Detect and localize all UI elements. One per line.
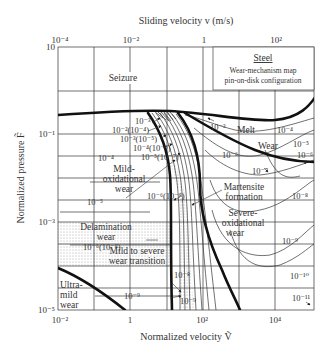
contour-label: 10⁻⁹ [282, 236, 298, 246]
legend-title: Steel [254, 53, 273, 63]
top-axis-title: Sliding velocity v (m/s) [139, 15, 234, 27]
contour-label: 10⁻⁶(10⁻⁸) [83, 242, 121, 252]
legend-line2: pin-on-disk configuration [225, 76, 302, 85]
region-delamination-1: Delamination [80, 222, 132, 232]
region-martensite-1: Martensite [224, 182, 265, 192]
contour-label: 10⁻⁵ [87, 197, 103, 207]
left-tick: 10⁻¹ [39, 129, 56, 139]
top-tick: 10² [270, 35, 282, 45]
contour-label: 10⁻¹⁰ [290, 271, 310, 281]
region-mild-oxidational-1: Mild- [113, 164, 135, 174]
wear-mechanism-map: Sliding velocity v (m/s) 10⁻⁴ 10⁻² 1 10²… [0, 0, 329, 356]
contour-label: 10⁻⁹ [124, 291, 140, 301]
left-tick: 10⁻³ [39, 217, 56, 227]
region-severe-oxidational-2: oxidational [222, 218, 265, 228]
bottom-tick: 10⁴ [269, 315, 281, 325]
top-tick: 10⁻² [123, 35, 140, 45]
bottom-axis-title: Normalized velocity Ṽ [140, 331, 232, 342]
legend-line1: Wear-mechanism map [230, 66, 297, 75]
contour-label: 10⁻⁸ [292, 191, 308, 201]
legend-box: Steel Wear-mechanism map pin-on-disk con… [213, 47, 314, 90]
left-tick: 10⁻⁵ [38, 305, 55, 315]
contour-labels: 10⁻³ 10⁻²(10⁻⁴) 10⁻³(10⁻⁵) 10⁻⁴(10⁻⁶) 10… [83, 116, 313, 306]
contour-label: 10⁻¹¹ [292, 293, 311, 303]
region-severe-oxidational-3: wear [226, 228, 245, 238]
region-mild-oxidational-2: oxidational [103, 174, 146, 184]
region-delamination-2: wear [97, 232, 116, 242]
bottom-tick: 10⁻² [52, 315, 69, 325]
region-mild-oxidational-3: wear [115, 184, 134, 194]
contour-label: 10⁻⁶ [297, 150, 313, 160]
region-wear: Wear [258, 141, 279, 151]
region-seizure: Seizure [109, 73, 138, 83]
region-ultra-mild-2: mild [60, 290, 78, 300]
region-ultra-mild-3: wear [60, 300, 79, 310]
contour-label: 10⁻⁹ [180, 296, 196, 306]
region-melt: Melt [237, 125, 255, 135]
contour-label: 10⁻⁶(10⁻⁸) [147, 191, 185, 201]
left-axis-title: Normalized pressure F̃ [14, 132, 26, 224]
contour-label: 10⁻⁵ [293, 139, 309, 149]
region-ultra-mild-1: Ultra- [60, 280, 83, 290]
contour-label: 10⁻⁸ [174, 270, 190, 280]
region-martensite-2: formation [225, 192, 263, 202]
bottom-tick: 10² [196, 315, 208, 325]
contour-label: 10⁻³ [210, 122, 226, 132]
bottom-tick: 1 [128, 315, 133, 325]
region-severe-oxidational-1: Severe- [228, 208, 257, 218]
contour-label: 10⁻⁶ [222, 150, 238, 160]
region-transition-2: wear transition [109, 256, 166, 266]
contour-label: 10⁻⁴ [277, 125, 293, 135]
contour-label: 10⁻⁴ [98, 153, 114, 163]
contour-label: 10⁻⁵(10⁻⁷) [141, 152, 179, 162]
contour-label: 10⁻⁷ [252, 166, 268, 176]
top-tick: 1 [202, 35, 207, 45]
left-tick: 10 [46, 42, 56, 52]
